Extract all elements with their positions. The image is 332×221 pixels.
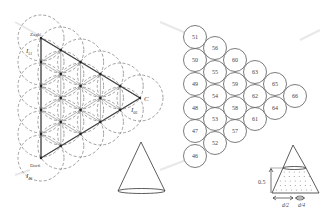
circle-label: 63 <box>252 69 258 75</box>
circle-label: 60 <box>232 57 238 63</box>
vertex-label-bottom: Dorñ <box>30 163 41 168</box>
height-label: 0.5 <box>258 179 266 185</box>
vertex-label-top: Zaglé <box>30 32 42 37</box>
numbered-circle-64: 64 <box>264 97 287 120</box>
lattice-nodes <box>40 37 141 159</box>
circle-label: 54 <box>212 93 218 99</box>
lattice-node <box>79 61 81 63</box>
numbered-circle-56: 56 <box>204 37 227 60</box>
numbered-circle-46: 46 <box>184 145 207 168</box>
circle-label: 58 <box>232 105 238 111</box>
lattice-node <box>40 37 42 39</box>
width-arrows <box>273 196 305 200</box>
numbered-circle-51: 51 <box>184 26 207 49</box>
width-label-d2: d/2 <box>282 202 289 208</box>
lattice-node <box>40 61 42 63</box>
numbered-circle-grid: 5150494847465655545352605958576362616564… <box>184 26 307 168</box>
numbered-circle-48: 48 <box>184 97 207 120</box>
lattice-node <box>119 109 121 111</box>
light-label-top: I51 <box>25 47 32 56</box>
lattice-node <box>119 85 121 87</box>
circle-label: 64 <box>272 105 278 111</box>
width-label-d4: d/4 <box>298 202 305 208</box>
numbered-circle-59: 59 <box>224 73 247 96</box>
circle-label: 53 <box>212 116 218 122</box>
numbered-circle-52: 52 <box>204 132 227 155</box>
vertex-label-c: C <box>144 95 149 103</box>
numbered-circle-66: 66 <box>284 85 307 108</box>
circle-label: 59 <box>232 81 238 87</box>
circle-label: 51 <box>192 34 198 40</box>
lattice-node <box>40 109 42 111</box>
lattice-node <box>99 97 101 99</box>
circle-label: 66 <box>292 93 298 99</box>
circle-label: 47 <box>192 128 198 134</box>
numbered-circle-63: 63 <box>244 61 267 84</box>
lattice-node <box>40 157 42 159</box>
circle-label: 62 <box>252 93 258 99</box>
lattice-node <box>79 109 81 111</box>
dashed-circle-lattice <box>18 15 163 181</box>
cone-illustration <box>118 142 165 194</box>
frustum-illustration <box>270 145 319 193</box>
lattice-node <box>79 85 81 87</box>
numbered-circle-47: 47 <box>184 120 207 143</box>
circle-label: 46 <box>192 153 198 159</box>
height-arrow <box>269 169 273 194</box>
lattice-node <box>60 121 62 123</box>
lattice-node <box>99 73 101 75</box>
circle-label: 52 <box>212 140 218 146</box>
numbered-circle-49: 49 <box>184 73 207 96</box>
lattice-node <box>40 85 42 87</box>
light-label-right: I66 <box>130 106 137 115</box>
circle-label: 65 <box>272 81 278 87</box>
circle-label: 56 <box>212 45 218 51</box>
lattice-node <box>99 121 101 123</box>
circle-label: 61 <box>252 116 258 122</box>
circle-label: 50 <box>192 57 198 63</box>
numbered-circle-60: 60 <box>224 49 247 72</box>
figure-canvas: Zaglé Dorñ C I51 I66 I46 515049484746565… <box>0 0 332 221</box>
frustum-sample-dots <box>276 172 312 191</box>
light-label-bottom: I46 <box>25 172 32 181</box>
numbered-circle-57: 57 <box>224 120 247 143</box>
lattice-node <box>60 97 62 99</box>
circle-label: 49 <box>192 81 198 87</box>
numbered-circle-53: 53 <box>204 108 227 131</box>
lattice-node <box>139 97 141 99</box>
numbered-circle-54: 54 <box>204 85 227 108</box>
lattice-node <box>40 133 42 135</box>
circle-label: 48 <box>192 105 198 111</box>
numbered-circle-58: 58 <box>224 97 247 120</box>
numbered-circle-55: 55 <box>204 61 227 84</box>
numbered-circle-50: 50 <box>184 49 207 72</box>
lattice-node <box>60 73 62 75</box>
numbered-circle-65: 65 <box>264 73 287 96</box>
lattice-node <box>60 145 62 147</box>
lattice-node <box>60 49 62 51</box>
circle-label: 57 <box>232 128 238 134</box>
numbered-circle-61: 61 <box>244 108 267 131</box>
circle-label: 55 <box>212 69 218 75</box>
numbered-circle-62: 62 <box>244 85 267 108</box>
lattice-node <box>79 133 81 135</box>
